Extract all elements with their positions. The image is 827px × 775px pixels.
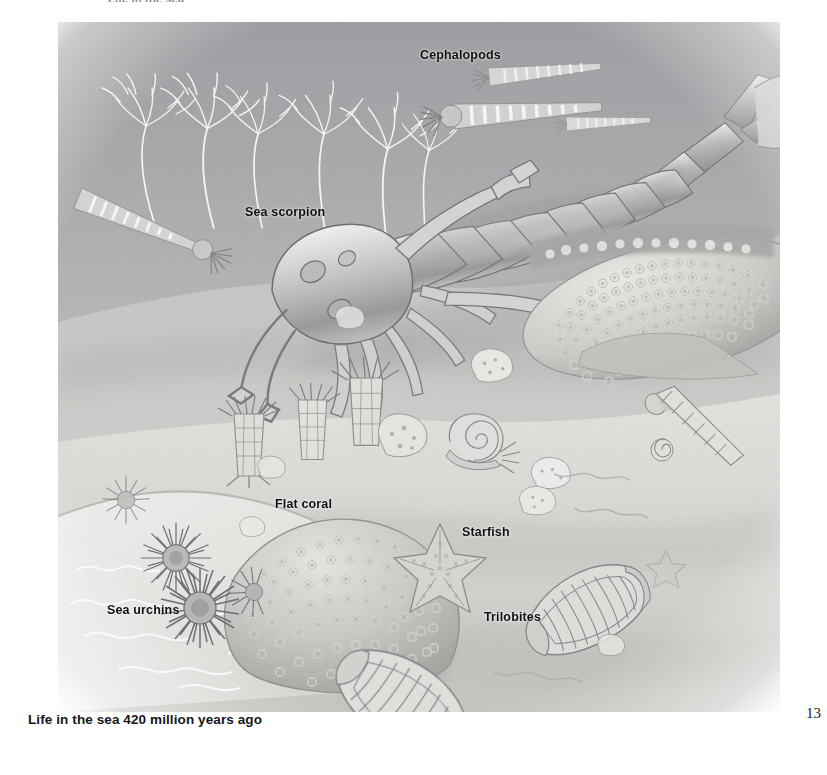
figure-caption: Life in the sea 420 million years ago bbox=[28, 712, 262, 727]
label-flat-coral: Flat coral bbox=[275, 497, 332, 511]
label-trilobites: Trilobites bbox=[484, 610, 541, 624]
page-canvas: Life in the sea bbox=[0, 0, 827, 775]
label-cephalopods: Cephalopods bbox=[420, 48, 501, 62]
label-sea-scorpion: Sea scorpion bbox=[245, 205, 325, 219]
illustration: Cephalopods Sea scorpion Flat coral Star… bbox=[58, 22, 780, 712]
page-number: 13 bbox=[806, 705, 821, 722]
clipped-page-heading: Life in the sea bbox=[108, 0, 228, 2]
label-sea-urchins: Sea urchins bbox=[107, 603, 180, 617]
label-starfish: Starfish bbox=[462, 525, 510, 539]
